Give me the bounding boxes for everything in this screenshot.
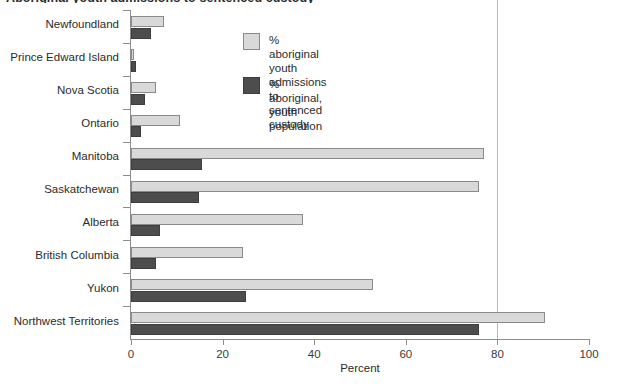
legend-swatch-dark bbox=[243, 77, 260, 94]
category-label: Alberta bbox=[0, 216, 119, 228]
bar-admissions bbox=[131, 16, 164, 27]
y-axis-tick bbox=[123, 175, 131, 176]
x-axis-tick-label: 40 bbox=[308, 348, 321, 360]
bar-population bbox=[131, 159, 202, 170]
x-axis-tick bbox=[131, 339, 132, 345]
bar-admissions bbox=[131, 115, 180, 126]
category-label: Manitoba bbox=[0, 150, 119, 162]
category-label: Northwest Territories bbox=[0, 315, 119, 327]
bar-admissions bbox=[131, 312, 545, 323]
x-axis-tick bbox=[314, 339, 315, 345]
bar-population bbox=[131, 258, 156, 269]
category-label: Yukon bbox=[0, 282, 119, 294]
bar-admissions bbox=[131, 247, 243, 258]
legend-swatch-light bbox=[243, 33, 260, 50]
bar-admissions bbox=[131, 82, 156, 93]
x-axis-tick-label: 80 bbox=[491, 348, 504, 360]
bar-population bbox=[131, 291, 246, 302]
y-axis-tick bbox=[123, 10, 131, 11]
category-label: Prince Edward Island bbox=[0, 51, 119, 63]
x-axis-tick bbox=[406, 339, 407, 345]
bar-population bbox=[131, 126, 141, 137]
x-axis-tick-label: 20 bbox=[216, 348, 229, 360]
bar-population bbox=[131, 192, 199, 203]
bar-population bbox=[131, 324, 479, 335]
y-axis-tick bbox=[123, 273, 131, 274]
category-label: Ontario bbox=[0, 117, 119, 129]
x-axis-tick bbox=[497, 339, 498, 345]
bar-population bbox=[131, 28, 151, 39]
category-label: Saskatchewan bbox=[0, 183, 119, 195]
bar-admissions bbox=[131, 279, 373, 290]
y-axis-tick bbox=[123, 142, 131, 143]
x-axis-tick bbox=[589, 339, 590, 345]
bar-admissions bbox=[131, 49, 134, 60]
bar-population bbox=[131, 94, 145, 105]
bar-admissions bbox=[131, 181, 479, 192]
bar-admissions bbox=[131, 148, 484, 159]
x-axis-line bbox=[130, 339, 589, 340]
y-axis-tick bbox=[123, 76, 131, 77]
y-axis-tick bbox=[123, 109, 131, 110]
x-axis-title: Percent bbox=[131, 362, 589, 374]
legend-item: % aboriginal, youth population bbox=[243, 77, 322, 133]
y-axis-tick bbox=[123, 306, 131, 307]
y-axis-tick bbox=[123, 207, 131, 208]
y-axis-tick bbox=[123, 43, 131, 44]
reference-line-80 bbox=[497, 0, 498, 339]
legend-label: % aboriginal, youth population bbox=[269, 77, 322, 133]
bar-admissions bbox=[131, 214, 303, 225]
category-label: Nova Scotia bbox=[0, 84, 119, 96]
y-axis-tick bbox=[123, 240, 131, 241]
plot-area bbox=[131, 10, 589, 339]
category-label: Newfoundland bbox=[0, 18, 119, 30]
x-axis-tick-label: 0 bbox=[128, 348, 134, 360]
chart-title: Aboriginal youth admissions to sentenced… bbox=[6, 0, 314, 3]
x-axis-tick-label: 60 bbox=[399, 348, 412, 360]
x-axis-tick-label: 100 bbox=[579, 348, 598, 360]
chart-container: Aboriginal youth admissions to sentenced… bbox=[0, 0, 621, 387]
bar-population bbox=[131, 225, 160, 236]
x-axis-tick bbox=[223, 339, 224, 345]
bar-population bbox=[131, 61, 136, 72]
category-label: British Columbia bbox=[0, 249, 119, 261]
